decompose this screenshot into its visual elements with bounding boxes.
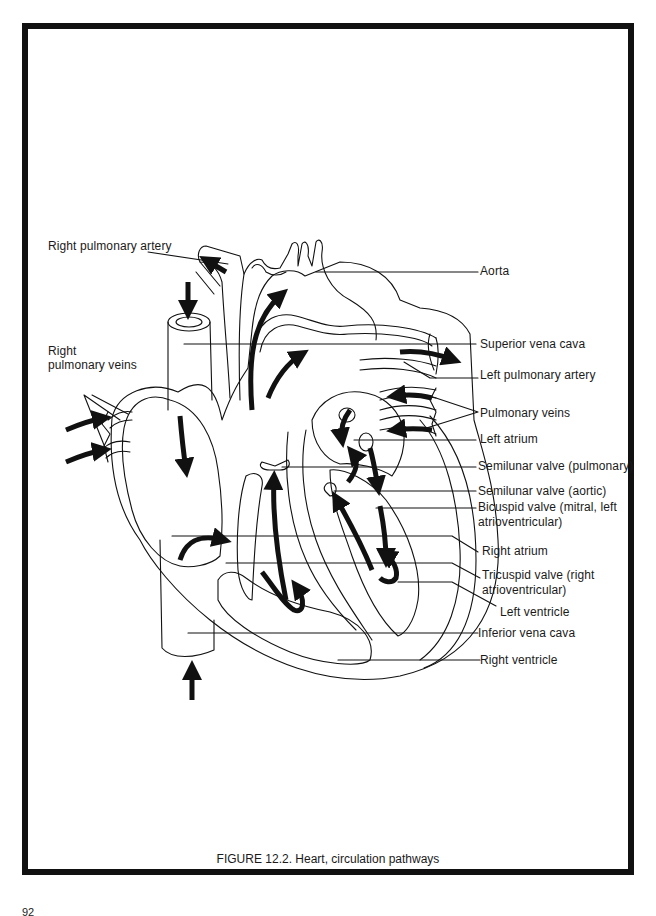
label-right-pulmonary-veins-line1: Right <box>48 344 77 358</box>
arrow-pulm-trunk <box>251 294 282 410</box>
inferior-vena-cava <box>160 540 214 657</box>
label-right-pulmonary-veins-line2: pulmonary veins <box>48 358 137 372</box>
label-superior-vena-cava: Superior vena cava <box>480 337 585 351</box>
arrow-rv-up-pulmonary <box>274 478 286 600</box>
label-bicuspid-valve-line2: atrioventricular) <box>478 515 562 529</box>
superior-vena-cava <box>168 322 212 410</box>
label-aorta: Aorta <box>480 264 509 278</box>
figure-caption: FIGURE 12.2. Heart, circulation pathways <box>0 852 656 866</box>
right-atrium-wall <box>122 397 222 567</box>
label-left-pulmonary-artery: Left pulmonary artery <box>480 368 596 382</box>
arrow-rpv-1 <box>66 418 104 430</box>
arrow-lv-hook <box>380 554 397 582</box>
leader-lpa <box>404 362 478 378</box>
label-semilunar-valve-pulmonary: Semilunar valve (pulmonary) <box>478 459 633 473</box>
page-number: 92 <box>22 906 34 916</box>
label-pulmonary-veins: Pulmonary veins <box>480 406 570 420</box>
leader-right-pulmonary-artery <box>148 252 228 264</box>
arrow-lpa-out <box>400 351 454 360</box>
arrow-lv-to-aorta <box>336 498 372 570</box>
label-tricuspid-valve-line1: Tricuspid valve (right <box>482 568 594 582</box>
arrow-lv-down <box>380 506 386 560</box>
label-left-atrium: Left atrium <box>480 432 538 446</box>
arrow-rpv-2 <box>66 450 104 462</box>
semilunar-valve-aortic <box>324 483 336 496</box>
label-right-pulmonary-artery: Right pulmonary artery <box>48 239 172 253</box>
arrow-lpv-2 <box>394 429 432 431</box>
arrow-to-rpa <box>268 354 302 398</box>
arrow-ra-down <box>180 416 186 470</box>
label-bicuspid-valve-line1: Bicuspid valve (mitral, left <box>478 500 617 514</box>
arrow-la-down-1 <box>341 410 350 440</box>
arrow-lpv-1 <box>394 395 432 398</box>
label-tricuspid-valve-line2: atrioventricular) <box>482 583 566 597</box>
label-right-atrium: Right atrium <box>482 544 548 558</box>
heart-diagram <box>0 0 656 916</box>
label-right-ventricle: Right ventricle <box>480 653 558 667</box>
label-semilunar-valve-aortic: Semilunar valve (aortic) <box>478 484 606 498</box>
label-left-ventricle: Left ventricle <box>500 605 569 619</box>
leader-pulm-veins <box>420 396 478 430</box>
semilunar-valve-pulmonary <box>260 460 289 470</box>
right-pulmonary-veins <box>102 411 132 462</box>
arrow-ra-tricuspid <box>180 538 224 560</box>
arrow-la-down-2 <box>370 448 378 488</box>
label-inferior-vena-cava: Inferior vena cava <box>478 626 575 640</box>
left-ventricle-wall <box>330 470 419 636</box>
